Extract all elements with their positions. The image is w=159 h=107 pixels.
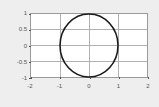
xtick-mark-0 (90, 77, 91, 79)
xtick-label--1: -1 (57, 83, 62, 89)
ytick-label-0.5: 0.5 (8, 26, 27, 32)
xtick-mark--2 (31, 77, 32, 79)
xtick-mark--1 (60, 77, 61, 79)
figure-canvas: 1 0.5 0 -0.5 -1 -2 -1 0 1 2 (0, 0, 159, 107)
ytick-mark--0.5 (29, 62, 31, 63)
ytick-label-0: 0 (8, 43, 27, 49)
xtick-label-2: 2 (146, 83, 149, 89)
ytick-label--1: -1 (8, 75, 27, 81)
ytick-mark-0.5 (29, 30, 31, 31)
plot-area (30, 13, 148, 78)
ytick-label--0.5: -0.5 (8, 59, 27, 65)
unit-circle-curve (60, 14, 118, 77)
xtick-mark-1 (119, 77, 120, 79)
xtick-label-0: 0 (87, 83, 90, 89)
ytick-mark-1 (29, 14, 31, 15)
xtick-label-1: 1 (117, 83, 120, 89)
ytick-mark-0 (29, 46, 31, 47)
data-layer (31, 14, 147, 77)
xtick-mark-2 (148, 77, 149, 79)
ytick-label-1: 1 (8, 10, 27, 16)
xtick-label--2: -2 (27, 83, 32, 89)
